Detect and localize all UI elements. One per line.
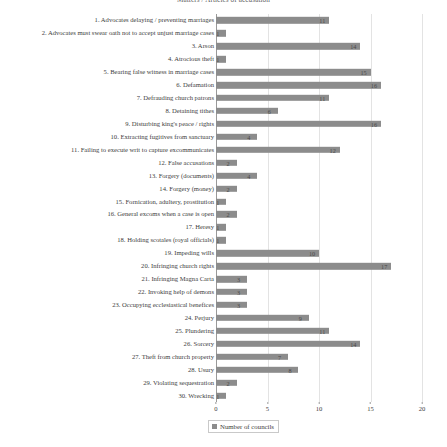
bar-row: 21. Infringing Magna Carta3 <box>0 273 447 286</box>
bar-row: 16. General excoms when a case is open2 <box>0 208 447 221</box>
bar-value-label: 14 <box>350 340 356 347</box>
bar-value-label: 11 <box>319 17 325 24</box>
bar-value-label: 8 <box>288 366 291 373</box>
bar-row: 20. Infringing church rights17 <box>0 260 447 273</box>
category-label: 21. Infringing Magna Carta <box>141 275 214 283</box>
category-label: 15. Fornication, adultery, prostitution <box>116 198 214 206</box>
category-label: 26. Sorcery <box>184 340 214 348</box>
bar-value-label: 16 <box>371 82 377 89</box>
x-tick-label: 5 <box>266 404 269 413</box>
bar-value-label: 2 <box>227 159 230 166</box>
bar-row: 3. Arson14 <box>0 40 447 53</box>
bar-value-label: 15 <box>361 69 367 76</box>
x-tick-label: 15 <box>367 404 374 413</box>
bar[interactable] <box>216 172 257 178</box>
bar[interactable] <box>216 69 371 75</box>
category-label: 22. Invoking help of demons <box>138 288 214 296</box>
bar-row: 1. Advocates delaying / preventing marri… <box>0 14 447 27</box>
bar-row: 5. Bearing false witness in marriage cas… <box>0 66 447 79</box>
x-tick-5: 5 <box>266 402 269 413</box>
bar-row: 15. Fornication, adultery, prostitution1 <box>0 195 447 208</box>
bar[interactable] <box>216 302 247 308</box>
category-label: 18. Holding scotales (royal officials) <box>117 237 214 245</box>
category-label: 29. Violating sequestration <box>143 379 214 387</box>
bar[interactable] <box>216 134 257 140</box>
bar-value-label: 4 <box>247 133 250 140</box>
bar-value-label: 3 <box>237 276 240 283</box>
bar-row: 10. Extracting fugitives from sanctuary4 <box>0 130 447 143</box>
category-label: 2. Advocates must swear oath not to acce… <box>42 30 214 38</box>
plot-area: 1. Advocates delaying / preventing marri… <box>0 14 447 402</box>
chart-title: Matters / Articles of accusation <box>0 0 447 3</box>
bar-value-label: 3 <box>237 301 240 308</box>
x-tick-label: 20 <box>419 404 426 413</box>
bar-row: 27. Theft from church property7 <box>0 350 447 363</box>
legend-label: Number of councils <box>220 423 274 431</box>
bar-row: 17. Heresy1 <box>0 221 447 234</box>
bar-row: 26. Sorcery14 <box>0 337 447 350</box>
bar[interactable] <box>216 263 391 269</box>
bar-row: 6. Defamation16 <box>0 79 447 92</box>
x-tick-15: 15 <box>367 402 374 413</box>
bar-value-label: 1 <box>216 56 219 63</box>
x-axis: 05101520 <box>0 402 447 418</box>
x-tick-0: 0 <box>214 402 217 413</box>
chart-legend[interactable]: Number of councils <box>208 420 279 433</box>
bar-value-label: 11 <box>319 95 325 102</box>
x-tick-label: 10 <box>316 404 323 413</box>
bar-value-label: 1 <box>216 30 219 37</box>
bar[interactable] <box>216 121 381 127</box>
bar[interactable] <box>216 289 247 295</box>
category-label: 9. Disturbing king's peace / rights <box>125 120 214 128</box>
category-label: 1. Advocates delaying / preventing marri… <box>95 17 214 25</box>
bar-value-label: 2 <box>227 211 230 218</box>
category-label: 8. Detaining tithes <box>165 107 214 115</box>
bar[interactable] <box>216 328 329 334</box>
x-tick-label: 0 <box>214 404 217 413</box>
bar[interactable] <box>216 82 381 88</box>
bar-value-label: 3 <box>237 289 240 296</box>
category-label: 14. Forgery (money) <box>159 185 214 193</box>
bar[interactable] <box>216 17 329 23</box>
bar[interactable] <box>216 147 340 153</box>
bar[interactable] <box>216 315 309 321</box>
bar-row: 9. Disturbing king's peace / rights16 <box>0 117 447 130</box>
category-label: 30. Wrecking <box>178 392 214 400</box>
x-tick-20: 20 <box>419 402 426 413</box>
category-label: 13. Forgery (documents) <box>149 172 214 180</box>
category-label: 10. Extracting fugitives from sanctuary <box>111 133 214 141</box>
bar-row: 13. Forgery (documents)4 <box>0 169 447 182</box>
bar-row: 29. Violating sequestration2 <box>0 376 447 389</box>
category-label: 23. Occupying ecclesiastical benefices <box>112 301 214 309</box>
bar-row: 4. Atrocious theft1 <box>0 53 447 66</box>
bar-row: 8. Detaining tithes6 <box>0 105 447 118</box>
bar-value-label: 2 <box>227 185 230 192</box>
category-label: 25. Plundering <box>175 327 214 335</box>
legend-swatch-icon <box>212 424 217 429</box>
bar[interactable] <box>216 341 360 347</box>
category-label: 11. Failing to execute writ to capture e… <box>71 146 214 154</box>
bar[interactable] <box>216 276 247 282</box>
bar[interactable] <box>216 95 329 101</box>
bar[interactable] <box>216 366 298 372</box>
category-label: 24. Perjury <box>185 314 214 322</box>
bar-value-label: 1 <box>216 392 219 399</box>
bar-row: 23. Occupying ecclesiastical benefices3 <box>0 299 447 312</box>
bar-row: 11. Failing to execute writ to capture e… <box>0 143 447 156</box>
bar-chart: Matters / Articles of accusation 1. Advo… <box>0 0 447 447</box>
bar-row: 14. Forgery (money)2 <box>0 182 447 195</box>
category-label: 17. Heresy <box>185 224 214 232</box>
bar-value-label: 11 <box>319 327 325 334</box>
bar-value-label: 1 <box>216 224 219 231</box>
bar[interactable] <box>216 43 360 49</box>
bar-value-label: 9 <box>299 314 302 321</box>
bar-row: 28. Usury8 <box>0 363 447 376</box>
bar-row: 19. Impeding wills10 <box>0 247 447 260</box>
bar-value-label: 4 <box>247 172 250 179</box>
category-label: 3. Arson <box>192 43 214 51</box>
bar-value-label: 7 <box>278 353 281 360</box>
bar-value-label: 12 <box>330 146 336 153</box>
x-tick-10: 10 <box>316 402 323 413</box>
bar-row: 12. False accusations2 <box>0 156 447 169</box>
bar[interactable] <box>216 250 319 256</box>
